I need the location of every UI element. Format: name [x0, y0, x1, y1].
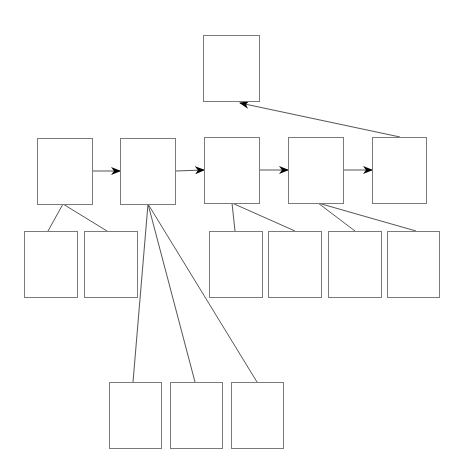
link-m4-c4b	[318, 203, 416, 231]
node-box-top	[204, 36, 260, 102]
link-m3-c3b	[232, 203, 295, 231]
node-box-c4b	[388, 232, 440, 298]
node-box-m3	[205, 138, 260, 204]
node-box-m2	[121, 139, 176, 205]
link-m3-c3a	[232, 203, 235, 231]
link-m2-c2b	[148, 204, 195, 382]
link-m1-c1b	[63, 204, 107, 231]
diagram-canvas	[0, 0, 465, 474]
arrow-m2-m3	[175, 170, 204, 171]
node-box-c1b	[85, 232, 138, 298]
node-box-c4a	[329, 232, 382, 298]
arrow-m5-top	[240, 103, 400, 137]
link-m4-c4a	[318, 203, 355, 231]
node-box-c3a	[210, 232, 263, 298]
node-box-m4	[289, 138, 344, 204]
node-box-c2c	[232, 383, 284, 449]
node-box-c1a	[25, 232, 78, 298]
node-box-c2b	[171, 383, 223, 449]
link-m1-c1a	[48, 204, 63, 231]
node-box-m1	[38, 139, 93, 205]
node-box-c2a	[110, 383, 162, 449]
node-box-c3b	[269, 232, 322, 298]
node-box-m5	[373, 138, 427, 204]
